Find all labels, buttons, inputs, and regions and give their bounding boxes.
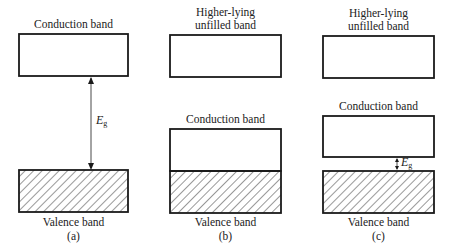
band-gap-subscript: g xyxy=(103,119,107,128)
higher-band-box-b xyxy=(170,35,281,77)
valence-band-box-a xyxy=(19,170,128,212)
higher-band-box-c xyxy=(323,36,434,78)
panel-caption-b: (b) xyxy=(170,230,281,243)
valence-band-box-c xyxy=(323,171,434,213)
higher-band-label-line2-b: unfilled band xyxy=(170,19,281,32)
higher-band-label-line2-c: unfilled band xyxy=(323,20,434,33)
higher-band-label-line1-b: Higher-lying xyxy=(170,6,281,19)
conduction-band-label-c: Conduction band xyxy=(323,100,434,113)
band-gap-label-a: Eg xyxy=(96,113,107,128)
valence-band-label-c: Valence band xyxy=(323,216,434,229)
band-gap-arrow-a xyxy=(88,77,94,170)
conduction-band-box-c xyxy=(323,116,434,157)
panel-a xyxy=(19,34,128,212)
band-gap-label-c: Eg xyxy=(401,155,412,170)
band-diagram-canvas xyxy=(0,0,451,252)
conduction-band-box-a xyxy=(19,34,128,76)
panel-c xyxy=(323,36,434,213)
band-gap-subscript: g xyxy=(408,161,412,170)
higher-band-label-line1-c: Higher-lying xyxy=(323,7,434,20)
valence-band-label-b: Valence band xyxy=(170,216,281,229)
panel-caption-c: (c) xyxy=(323,230,434,243)
conduction-band-label-a: Conduction band xyxy=(19,18,128,31)
band-gap-arrow-c xyxy=(395,158,399,170)
valence-band-label-a: Valence band xyxy=(19,216,128,229)
conduction-band-label-b: Conduction band xyxy=(170,113,281,126)
valence-band-box-b xyxy=(170,171,281,213)
panel-caption-a: (a) xyxy=(19,230,128,243)
conduction-band-box-b xyxy=(170,129,281,171)
